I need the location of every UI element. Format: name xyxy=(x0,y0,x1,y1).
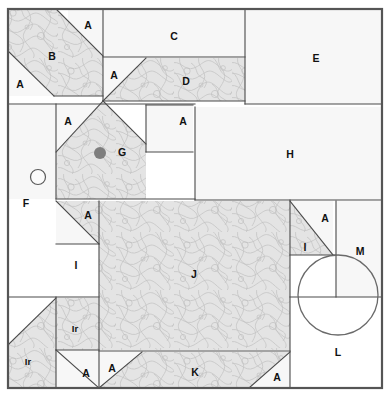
region-label-e-r07: E xyxy=(312,52,319,64)
marker-open-circle xyxy=(31,170,46,185)
region-label-a-r22: A xyxy=(108,362,116,374)
region-label-g-r09: G xyxy=(118,146,126,158)
region-label-a-r16: A xyxy=(321,212,329,224)
region-label-ir-r20: Ir xyxy=(25,356,32,367)
site-plan-figure: ABACADEAGAFHAIJAIMIrIrAAKAL xyxy=(0,0,392,397)
region-label-l-r25: L xyxy=(335,346,342,358)
region-label-b-r02: B xyxy=(48,50,56,62)
region-label-ir-r19: Ir xyxy=(72,323,79,334)
region-label-h-r12: H xyxy=(286,148,294,160)
region-label-a-r05: A xyxy=(110,69,118,81)
region-label-k-r23: K xyxy=(191,366,199,378)
plan-svg-canvas: ABACADEAGAFHAIJAIMIrIrAAKAL xyxy=(0,0,392,397)
marker-solid-dot xyxy=(94,147,106,159)
region-label-a-r01: A xyxy=(84,19,92,31)
region-label-m-r18: M xyxy=(356,245,365,257)
region-label-a-r08: A xyxy=(64,115,72,127)
region-label-a-r03: A xyxy=(16,78,24,90)
region-label-d-r06: D xyxy=(182,75,190,87)
region-label-f-r11: F xyxy=(23,197,30,209)
region-label-a-r10: A xyxy=(179,115,187,127)
region-label-a-r13: A xyxy=(84,209,92,221)
region-label-i-r17: I xyxy=(304,241,307,253)
region-label-a-r24: A xyxy=(273,371,281,383)
region-f xyxy=(9,105,56,199)
region-label-a-r21: A xyxy=(82,367,90,379)
region-label-c-r04: C xyxy=(170,30,178,42)
region-label-i-r14: I xyxy=(75,259,78,271)
region-label-j-r15: J xyxy=(191,268,197,280)
region-a-g-right xyxy=(146,105,193,152)
